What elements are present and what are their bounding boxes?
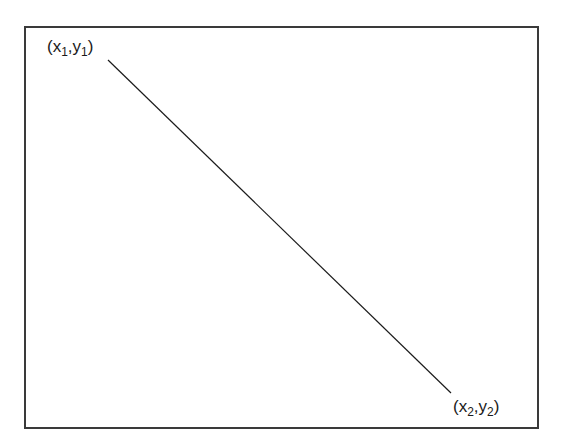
- line-segment: [0, 0, 565, 446]
- start-point-label: (x1,y1): [47, 38, 93, 58]
- end-point-label: (x2,y2): [453, 398, 499, 418]
